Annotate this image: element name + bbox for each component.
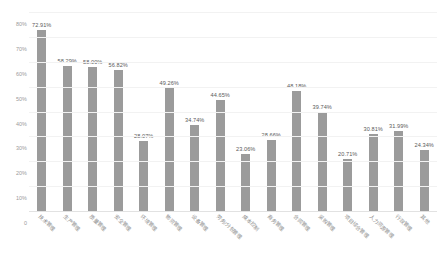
bar[interactable] (190, 125, 199, 211)
bar[interactable] (165, 88, 174, 211)
x-axis-tick-label: 其他 (420, 213, 432, 225)
gridline (29, 161, 437, 162)
gridline (29, 186, 437, 187)
bar-value-label: 20.71% (338, 151, 357, 157)
bar-value-label: 39.74% (313, 104, 332, 110)
bar-value-label: 49.26% (160, 80, 179, 86)
x-axis-label-slot: 商务管理 (259, 212, 285, 265)
bar[interactable] (114, 70, 123, 211)
bar-value-label: 30.81% (364, 126, 383, 132)
y-axis-tick-label: 20% (1, 170, 27, 176)
bar-value-label: 34.74% (185, 117, 204, 123)
bar[interactable] (394, 131, 403, 211)
x-axis-label-slot: 设备管理 (182, 212, 208, 265)
bar[interactable] (267, 140, 276, 211)
x-axis-label-slot: 采购管理 (310, 212, 336, 265)
gridline (29, 136, 437, 137)
x-axis-label-slot: 成本控制 (233, 212, 259, 265)
x-axis-label-slot: 行政管理 (386, 212, 412, 265)
bar-value-label: 44.65% (211, 92, 230, 98)
y-axis: 80%70%60%50%40%30%20%10%0 (0, 12, 27, 211)
y-axis-tick-label: 50% (1, 96, 27, 102)
bar-value-label: 31.99% (389, 123, 408, 129)
bar-chart: 80%70%60%50%40%30%20%10%0 72.91%58.29%58… (0, 0, 443, 265)
x-axis-label-slot: 技术管理 (29, 212, 55, 265)
y-axis-tick-label: 40% (1, 121, 27, 127)
x-axis-label-slot: 劳务/分包管理 (208, 212, 234, 265)
x-axis-label-slot: 质量管理 (80, 212, 106, 265)
bar[interactable] (369, 134, 378, 211)
y-axis-tick-label: 80% (1, 21, 27, 27)
bar[interactable] (37, 30, 46, 211)
gridline (29, 37, 437, 38)
plot-area: 72.91%58.29%58.00%56.82%28.07%49.26%34.7… (29, 12, 437, 211)
bar[interactable] (88, 67, 97, 211)
y-axis-tick-label: 10% (1, 195, 27, 201)
x-axis-labels: 技术管理生产管理质量管理安全管理环境管理物资管理设备管理劳务/分包管理成本控制商… (29, 212, 437, 265)
y-axis-tick-label: 60% (1, 71, 27, 77)
x-axis-label-slot: 安全管理 (106, 212, 132, 265)
bar[interactable] (420, 150, 429, 211)
x-axis-label-slot: 其他 (412, 212, 438, 265)
bar[interactable] (216, 100, 225, 211)
x-axis-label-slot: 物资管理 (157, 212, 183, 265)
x-axis-label-slot: 项目综合管理 (335, 212, 361, 265)
gridline (29, 62, 437, 63)
gridline (29, 112, 437, 113)
y-axis-tick-label: 30% (1, 145, 27, 151)
bar[interactable] (139, 141, 148, 211)
bar-value-label: 72.91% (32, 22, 51, 28)
y-axis-tick-label: 70% (1, 46, 27, 52)
gridline (29, 12, 437, 13)
bar-value-label: 24.34% (415, 142, 434, 148)
x-axis-label-slot: 合同管理 (284, 212, 310, 265)
bar[interactable] (292, 91, 301, 211)
x-axis-label-slot: 人力资源管理 (361, 212, 387, 265)
x-axis-label-slot: 生产管理 (55, 212, 81, 265)
x-axis-label-slot: 环境管理 (131, 212, 157, 265)
y-axis-tick-label: 0 (1, 220, 27, 226)
bar-value-label: 23.06% (236, 146, 255, 152)
gridline (29, 87, 437, 88)
bar[interactable] (63, 66, 72, 211)
